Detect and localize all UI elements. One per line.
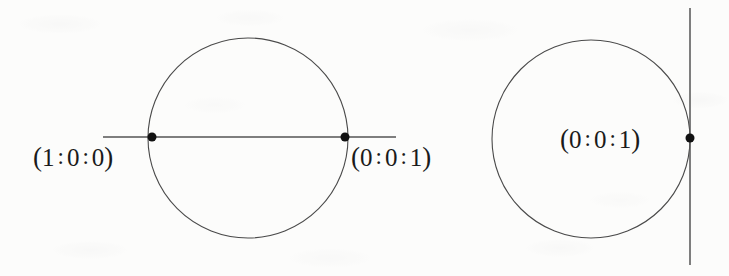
label-separator: :: [606, 126, 618, 151]
label-open-paren: (: [33, 142, 42, 172]
label-coord-a: 0: [569, 126, 582, 153]
label-right-diagram-point-0-0-1: (0:0:1): [560, 126, 640, 153]
projective-conic-figure: (1:0:0) (0:0:1) (0:0:1): [0, 0, 729, 276]
label-coord-c: 0: [92, 144, 105, 171]
label-close-paren: ): [422, 142, 431, 172]
label-coord-a: 0: [360, 144, 373, 171]
label-coord-c: 1: [619, 126, 632, 153]
label-open-paren: (: [351, 142, 360, 172]
label-coord-c: 1: [410, 144, 423, 171]
label-coord-b: 0: [594, 126, 607, 153]
label-coord-a: 1: [42, 144, 55, 171]
label-open-paren: (: [560, 124, 569, 154]
right-tangency-point-0-0-1: [686, 134, 695, 143]
label-separator: :: [55, 144, 67, 169]
left-diagram-group: [103, 38, 396, 238]
label-left-diagram-point-0-0-1: (0:0:1): [351, 144, 431, 171]
label-separator: :: [79, 144, 91, 169]
label-separator: :: [373, 144, 385, 169]
label-separator: :: [397, 144, 409, 169]
label-close-paren: ): [104, 142, 113, 172]
label-coord-b: 0: [67, 144, 80, 171]
label-coord-b: 0: [385, 144, 398, 171]
left-conic-circle: [148, 38, 348, 238]
label-left-point-1-0-0: (1:0:0): [33, 144, 113, 171]
left-marked-point-1-0-0: [148, 133, 157, 142]
label-separator: :: [582, 126, 594, 151]
left-marked-point-0-0-1: [341, 133, 350, 142]
label-close-paren: ): [631, 124, 640, 154]
